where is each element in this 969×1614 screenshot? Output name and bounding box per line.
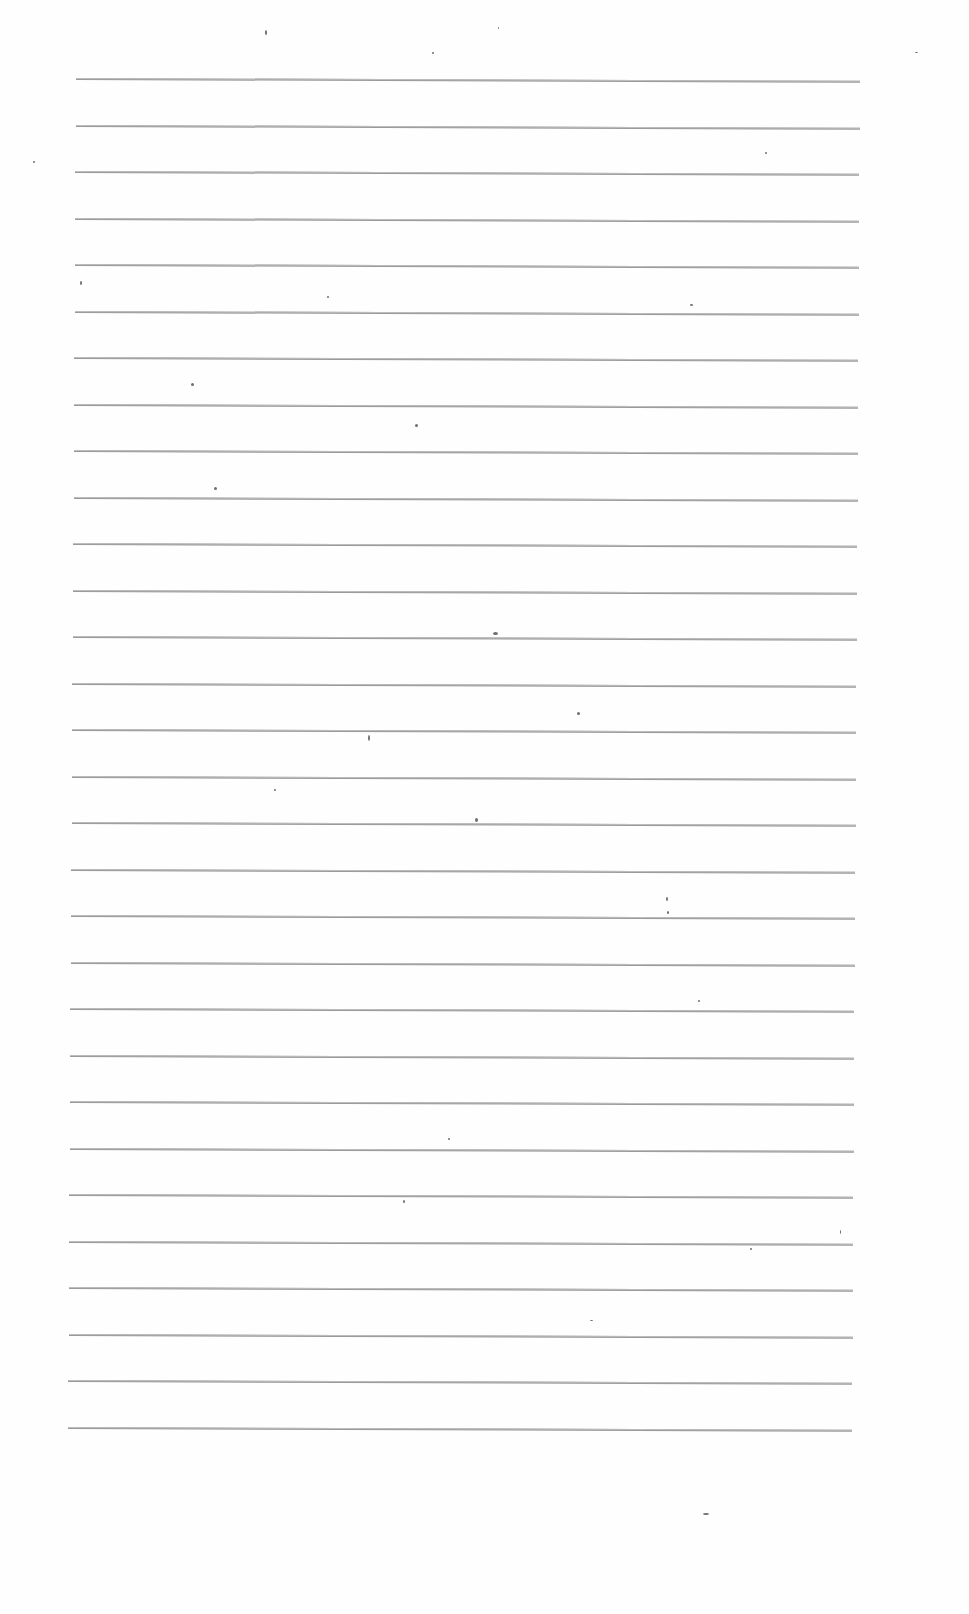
ruled-line [69,1194,853,1199]
scan-speck [415,424,418,427]
scan-speck [915,52,918,53]
ruled-line [68,1427,852,1432]
scan-speck [577,712,580,715]
ruled-line [73,636,857,641]
scan-speck [191,383,194,386]
ruled-line [74,497,858,502]
ruled-line [75,171,859,176]
ruled-line [70,1008,854,1013]
ruled-line [71,915,855,920]
scan-speck [33,161,35,163]
ruled-line [75,311,859,316]
ruled-paper-sheet [0,0,969,1614]
scan-speck [403,1200,405,1203]
scan-speck [214,487,217,490]
scan-speck [265,30,267,35]
scan-speck [667,911,669,914]
ruled-line [72,683,856,688]
scan-speck [80,281,82,285]
scan-speck [498,27,499,29]
scan-speck [690,304,693,306]
ruled-line [75,264,859,269]
ruled-line [71,869,855,874]
ruled-line [73,590,857,595]
ruled-line [68,1380,852,1385]
ruled-line [73,543,857,548]
scan-speck [493,632,498,635]
scan-speck [274,789,276,791]
ruled-line [74,450,858,455]
scan-speck [703,1513,709,1515]
ruled-line [70,1101,854,1106]
ruled-line [70,1148,854,1153]
scan-speck [475,818,478,822]
ruled-line [69,1334,853,1339]
scan-speck [666,897,668,901]
scan-speck [840,1230,841,1234]
scan-speck [698,1000,700,1002]
scan-speck [368,735,370,741]
ruled-line [76,78,860,83]
ruled-line [71,962,855,967]
ruled-line [72,822,856,827]
scan-speck [327,296,329,298]
scan-speck [432,52,434,54]
ruled-line [70,1055,854,1060]
scan-speck [448,1138,450,1140]
scan-speck [590,1320,593,1321]
ruled-line [76,125,860,130]
ruled-line [69,1241,853,1246]
ruled-line [72,729,856,734]
ruled-line [74,357,858,362]
scan-speck [750,1248,752,1250]
scan-speck [765,152,767,154]
ruled-line [74,404,858,409]
ruled-line [72,776,856,781]
ruled-line [69,1287,853,1292]
ruled-line [75,218,859,223]
